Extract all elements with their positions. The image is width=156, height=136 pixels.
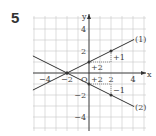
x-tick-label: −2 <box>61 75 73 84</box>
axes <box>33 14 146 131</box>
y-tick-label: −4 <box>74 113 86 122</box>
y-axis-arrow-icon <box>87 14 91 19</box>
grid <box>33 16 146 131</box>
coordinate-plane: xyO−4−22442−2−4(1)(2)+2+1+2−1 <box>0 0 156 136</box>
y-axis-label: y <box>81 12 87 21</box>
y-tick-label: −2 <box>74 91 86 100</box>
x-tick-label: −4 <box>39 75 51 84</box>
y-tick-label: 2 <box>81 47 86 56</box>
x-tick-label: 2 <box>108 75 113 84</box>
line-2-label: (2) <box>135 103 146 112</box>
y-tick-label: 4 <box>81 25 86 34</box>
rise-annotation-1: +1 <box>113 53 125 62</box>
run-annotation-1: +2 <box>91 63 103 72</box>
x-tick-label: 4 <box>130 75 135 84</box>
x-axis-label: x <box>147 70 152 79</box>
origin-label: O <box>81 75 88 84</box>
rise-annotation-2: −1 <box>113 86 125 95</box>
line-1-label: (1) <box>135 35 146 44</box>
x-axis-arrow-icon <box>141 71 146 75</box>
run-annotation-2: +2 <box>91 75 103 84</box>
